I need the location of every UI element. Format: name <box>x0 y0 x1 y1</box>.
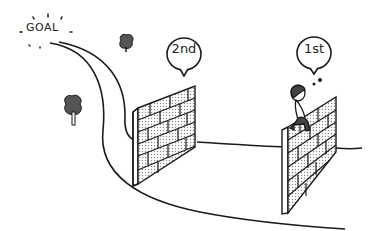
goal-label: GOAL <box>26 21 59 34</box>
tree-icon <box>120 34 133 52</box>
brick-wall-1st <box>282 97 336 214</box>
first-place-label: 1st <box>294 41 334 56</box>
second-place-label: 2nd <box>164 41 204 56</box>
person-figure <box>290 85 310 131</box>
tree-icon <box>65 95 82 125</box>
brick-wall-2nd <box>133 86 195 186</box>
illustration-scene <box>0 0 381 231</box>
